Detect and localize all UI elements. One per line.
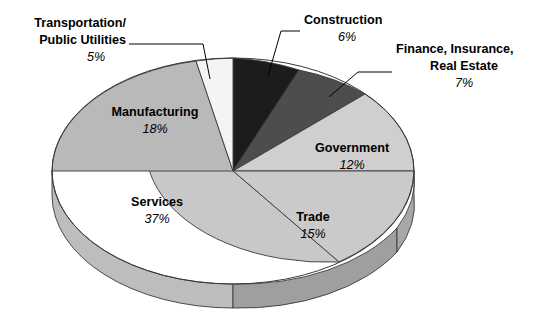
- pie-chart-svg: Transportation/ Public Utilities 5% Cons…: [0, 0, 539, 325]
- label-trade-name: Trade: [296, 210, 330, 224]
- label-finance-line1: Finance, Insurance,: [396, 42, 514, 56]
- pie-chart: Transportation/ Public Utilities 5% Cons…: [0, 0, 539, 325]
- label-manufacturing-pct: 18%: [142, 122, 167, 136]
- label-transportation-pct: 5%: [87, 50, 105, 64]
- label-transportation-line2: Public Utilities: [39, 33, 126, 47]
- label-transportation-line1: Transportation/: [34, 16, 126, 30]
- label-construction-pct: 6%: [338, 30, 356, 44]
- label-government-pct: 12%: [339, 158, 364, 172]
- label-services-name: Services: [131, 195, 183, 209]
- label-finance-pct: 7%: [455, 76, 473, 90]
- label-finance-line2: Real Estate: [430, 59, 498, 73]
- label-construction-name: Construction: [304, 13, 382, 27]
- label-government-name: Government: [315, 141, 390, 155]
- label-services-pct: 37%: [144, 212, 169, 226]
- label-manufacturing-name: Manufacturing: [112, 105, 199, 119]
- label-trade-pct: 15%: [300, 227, 325, 241]
